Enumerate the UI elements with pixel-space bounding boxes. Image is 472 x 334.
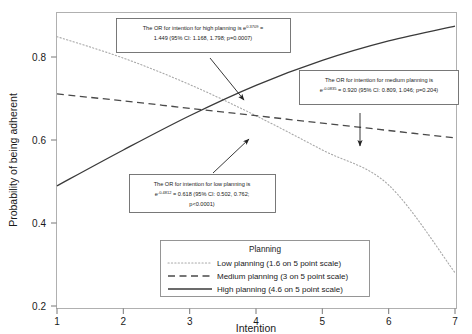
annotation-high-line1: The OR for intention for high planning i… bbox=[143, 24, 264, 31]
y-axis-title: Probability of being adherent bbox=[7, 93, 19, 227]
logistic-probability-chart: 0.8 0.6 0.4 0.2 1 2 3 4 5 6 7 Intention … bbox=[0, 0, 472, 334]
figure-container: 0.8 0.6 0.4 0.2 1 2 3 4 5 6 7 Intention … bbox=[0, 0, 472, 334]
annotation-medium-line2: e-0.0835 = 0.920 (95% CI: 0.809, 1.046; … bbox=[320, 86, 439, 93]
x-axis-ticks bbox=[57, 309, 455, 315]
x-tick-label-7: 7 bbox=[452, 316, 458, 327]
legend-title: Planning bbox=[249, 245, 281, 254]
legend: Planning Low planning (1.6 on 5 point sc… bbox=[161, 241, 370, 297]
legend-label-medium-planning: Medium planning (3 on 5 point scale) bbox=[217, 272, 349, 281]
y-tick-label-0-2: 0.2 bbox=[32, 301, 46, 312]
annotation-low-line3: p<0.0001) bbox=[189, 201, 214, 207]
legend-label-high-planning: High planning (4.6 on 5 point scale) bbox=[217, 285, 343, 294]
x-tick-label-6: 6 bbox=[386, 316, 392, 327]
y-tick-label-0-4: 0.4 bbox=[32, 218, 46, 229]
x-tick-label-5: 5 bbox=[320, 316, 326, 327]
y-tick-label-0-6: 0.6 bbox=[32, 135, 46, 146]
annotation-medium-line1: The OR for intention for medium planning… bbox=[325, 77, 433, 83]
x-axis-title: Intention bbox=[236, 322, 276, 334]
y-axis-ticks bbox=[51, 57, 57, 306]
x-tick-label-2: 2 bbox=[121, 316, 127, 327]
x-tick-label-1: 1 bbox=[54, 316, 60, 327]
legend-label-low-planning: Low planning (1.6 on 5 point scale) bbox=[217, 259, 341, 268]
annotation-low-line1: The OR for intention for low planning is bbox=[154, 181, 251, 187]
annotation-high-line2: 1.449 (95% CI: 1.168, 1.798; p=0.0007) bbox=[154, 35, 253, 41]
y-tick-label-0-8: 0.8 bbox=[32, 52, 46, 63]
x-tick-label-3: 3 bbox=[187, 316, 193, 327]
